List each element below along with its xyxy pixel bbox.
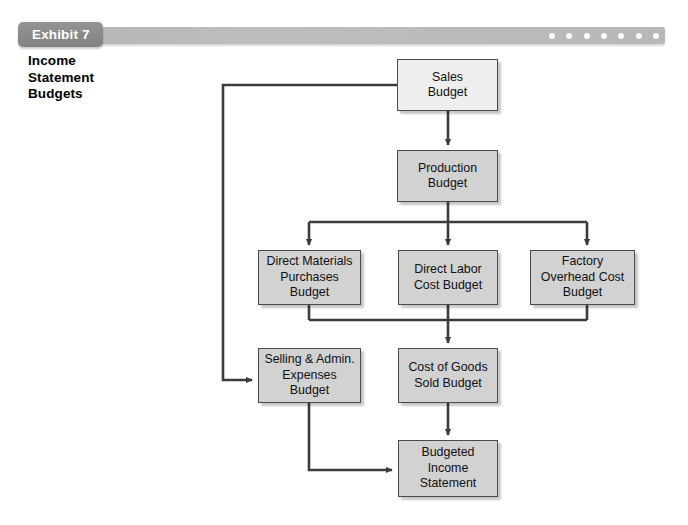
node-sales-budget-label: SalesBudget [425, 70, 470, 101]
budget-flowchart: SalesBudget ProductionBudget Direct Mate… [0, 0, 688, 525]
edge-sga-to-bis [309, 403, 392, 470]
node-direct-labor-cost-budget[interactable]: Direct LaborCost Budget [398, 250, 498, 305]
node-budgeted-income-statement[interactable]: BudgetedIncomeStatement [398, 440, 498, 497]
exhibit-page: Exhibit 7 Income Statement Budgets [0, 0, 688, 525]
node-cost-of-goods-sold-budget[interactable]: Cost of GoodsSold Budget [398, 348, 498, 403]
node-selling-admin-expenses-budget-label: Selling & Admin.ExpensesBudget [261, 352, 357, 399]
node-sales-budget[interactable]: SalesBudget [397, 59, 498, 111]
node-cost-of-goods-sold-budget-label: Cost of GoodsSold Budget [405, 360, 490, 391]
node-production-budget[interactable]: ProductionBudget [397, 150, 498, 202]
node-direct-materials-purchases-budget[interactable]: Direct MaterialsPurchasesBudget [258, 250, 361, 305]
node-production-budget-label: ProductionBudget [415, 161, 480, 192]
node-factory-overhead-cost-budget-label: FactoryOverhead CostBudget [538, 254, 627, 301]
node-direct-labor-cost-budget-label: Direct LaborCost Budget [411, 262, 485, 293]
node-selling-admin-expenses-budget[interactable]: Selling & Admin.ExpensesBudget [258, 348, 361, 403]
node-factory-overhead-cost-budget[interactable]: FactoryOverhead CostBudget [530, 250, 635, 305]
node-direct-materials-purchases-budget-label: Direct MaterialsPurchasesBudget [263, 254, 355, 301]
node-budgeted-income-statement-label: BudgetedIncomeStatement [417, 445, 479, 492]
